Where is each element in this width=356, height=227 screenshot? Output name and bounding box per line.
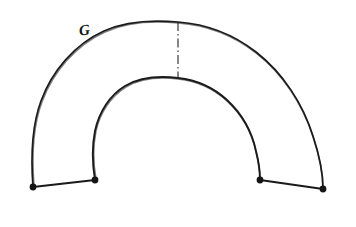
node-inner-left (92, 177, 99, 184)
node-inner-right (257, 177, 264, 184)
figure-canvas: G (0, 0, 356, 227)
annular-arc-drawing (0, 0, 356, 227)
node-outer-left (30, 184, 37, 191)
arc-label-g: G (78, 22, 90, 40)
node-outer-right (320, 186, 327, 193)
